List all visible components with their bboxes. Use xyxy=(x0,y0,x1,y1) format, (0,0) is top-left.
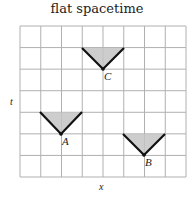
event-label: B xyxy=(145,156,152,168)
event-label: A xyxy=(61,135,69,147)
event-label: C xyxy=(104,70,112,82)
light-cone-fill xyxy=(40,112,82,134)
light-cone-fill xyxy=(123,134,165,155)
t-axis-label: t xyxy=(10,96,13,107)
light-cone-fill xyxy=(82,48,124,69)
spacetime-diagram: CAB xyxy=(0,0,194,202)
x-axis-label: x xyxy=(99,181,103,192)
